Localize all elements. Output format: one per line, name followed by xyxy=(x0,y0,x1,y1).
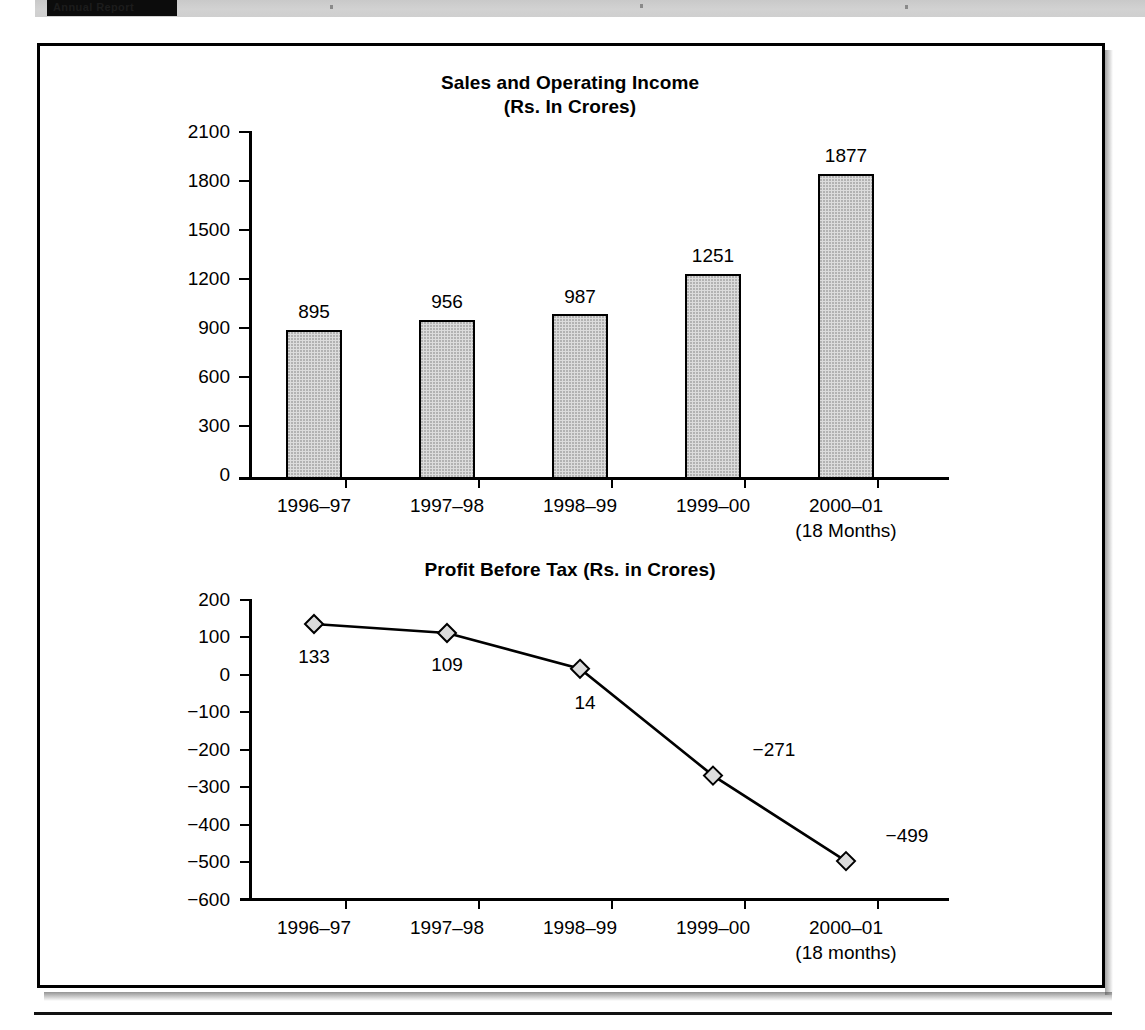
bar-xtick-mark-5 xyxy=(877,477,879,488)
line-value-label-1997-98: 109 xyxy=(387,654,507,676)
footer-divider-rule xyxy=(34,1012,1112,1015)
line-xtick-label-2000-01: 2000–01 xyxy=(766,915,926,940)
bar-chart: Sales and Operating Income (Rs. In Crore… xyxy=(40,46,1108,526)
header-strip-label: Annual Report xyxy=(53,1,134,13)
bar-ytick-2100: 2100 xyxy=(150,121,230,143)
page-header-strip: Annual Report xyxy=(0,0,1145,18)
bar-ytick-mark-2100 xyxy=(239,131,250,133)
bar-value-label-1999-00: 1251 xyxy=(653,245,773,267)
bar-value-label-2000-01: 1877 xyxy=(786,145,906,167)
bar-xtick-mark-4 xyxy=(744,477,746,488)
bar-xtick-mark-2 xyxy=(478,477,480,488)
bar-value-label-1996-97: 895 xyxy=(254,301,374,323)
line-chart: Profit Before Tax (Rs. in Crores) 200 10… xyxy=(40,526,1108,986)
header-strip-black-block: Annual Report xyxy=(47,0,177,16)
line-xtick-sublabel-2000-01: (18 months) xyxy=(766,940,926,965)
bar-1996-97[interactable] xyxy=(286,330,342,480)
bar-ytick-mark-300 xyxy=(239,425,250,427)
header-speck-2 xyxy=(640,4,643,8)
bar-ytick-0: 0 xyxy=(150,464,230,486)
header-strip-background xyxy=(35,0,1145,17)
marker-1997-98 xyxy=(438,624,456,642)
bar-value-label-1998-99: 987 xyxy=(520,286,640,308)
bar-ytick-mark-1500 xyxy=(239,229,250,231)
bar-ytick-mark-1800 xyxy=(239,180,250,182)
marker-2000-01 xyxy=(837,852,855,870)
bar-value-label-1997-98: 956 xyxy=(387,291,507,313)
bar-2000-01[interactable] xyxy=(818,174,874,479)
bar-chart-title-block: Sales and Operating Income (Rs. In Crore… xyxy=(220,71,920,119)
bar-ytick-900: 900 xyxy=(150,317,230,339)
bar-ytick-300: 300 xyxy=(150,415,230,437)
line-value-label-2000-01: −499 xyxy=(847,825,967,847)
bar-1998-99[interactable] xyxy=(552,314,608,479)
bar-chart-title: Sales and Operating Income xyxy=(220,71,920,95)
header-speck-1 xyxy=(330,5,333,9)
bar-ytick-600: 600 xyxy=(150,366,230,388)
bar-ytick-mark-900 xyxy=(239,327,250,329)
bar-xtick-label-2000-01: 2000–01 xyxy=(766,493,926,518)
bar-ytick-mark-600 xyxy=(239,376,250,378)
marker-1996-97 xyxy=(305,615,323,633)
bar-ytick-1500: 1500 xyxy=(150,219,230,241)
bar-xtick-mark-1 xyxy=(345,477,347,488)
bar-chart-subtitle: (Rs. In Crores) xyxy=(220,95,920,119)
bar-xtick-mark-3 xyxy=(611,477,613,488)
page-root: Annual Report Sales and Operating Income… xyxy=(0,0,1145,1030)
line-value-label-1998-99: 14 xyxy=(525,692,645,714)
line-value-label-1996-97: 133 xyxy=(254,646,374,668)
bar-ytick-1800: 1800 xyxy=(150,170,230,192)
bar-1997-98[interactable] xyxy=(419,320,475,480)
header-speck-3 xyxy=(905,5,908,9)
bar-ytick-1200: 1200 xyxy=(150,268,230,290)
frame-shadow-bottom xyxy=(44,992,1112,1001)
line-series-svg xyxy=(40,526,1108,946)
line-value-label-1999-00: −271 xyxy=(714,739,834,761)
figure-frame: Sales and Operating Income (Rs. In Crore… xyxy=(37,43,1105,988)
bar-ytick-mark-1200 xyxy=(239,278,250,280)
bar-1999-00[interactable] xyxy=(685,274,741,479)
